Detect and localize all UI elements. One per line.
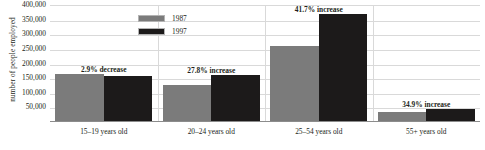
annotation-1: 2.9% decrease [50,65,158,74]
y-tick-label: 400,000 [8,1,46,9]
y-tick-label: 350,000 [8,16,46,24]
y-tick-label: 200,000 [8,60,46,68]
bar-1997-1 [104,76,152,121]
plot-area: 2.9% decrease27.8% increase41.7% increas… [50,5,480,122]
legend-label-1997: 1997 [172,27,187,36]
bar-1987-2 [163,85,211,121]
y-tick-label: 150,000 [8,74,46,82]
annotation-4: 34.9% increase [373,100,481,109]
bar-1987-4 [378,112,426,121]
bar-1987-1 [55,74,103,121]
bar-1997-4 [426,109,474,121]
x-axis-category-labels: 15–19 years old20–24 years old25–54 year… [50,127,480,143]
y-axis-tick-labels: 400,000350,000300,000250,000200,000150,0… [8,0,46,150]
legend-label-1987: 1987 [172,14,187,23]
legend-swatch-1997 [138,28,165,35]
y-tick-label: 300,000 [8,30,46,38]
category-label-1: 15–19 years old [50,127,158,136]
annotation-3: 41.7% increase [265,5,373,14]
bar-1997-2 [211,75,259,121]
y-tick-label: 250,000 [8,45,46,53]
annotation-2: 27.8% increase [158,66,266,75]
y-tick-label: 100,000 [8,89,46,97]
bar-1997-3 [319,14,367,121]
legend-item-1997: 1997 [138,25,200,38]
legend: 1987 1997 [138,12,200,38]
bar-1987-3 [270,46,318,121]
bar-chart: number of people employed 400,000350,000… [0,0,485,150]
category-label-2: 20–24 years old [158,127,266,136]
category-label-3: 25–54 years old [265,127,373,136]
category-label-4: 55+ years old [373,127,481,136]
legend-swatch-1987 [138,15,165,22]
category-divider [265,6,266,121]
legend-item-1987: 1987 [138,12,200,25]
y-tick-label: 50,000 [8,103,46,111]
